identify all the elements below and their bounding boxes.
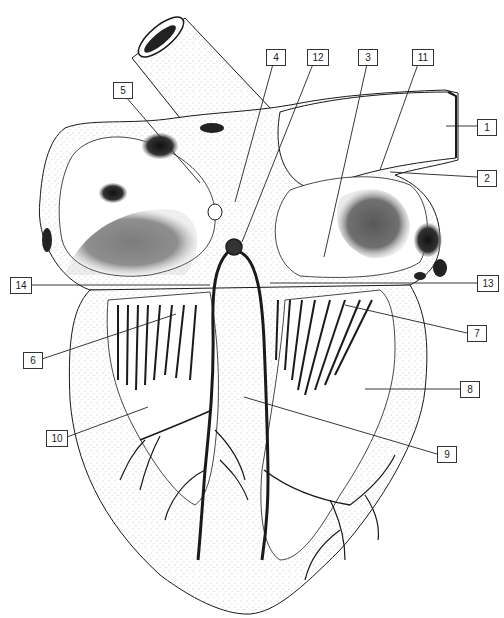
label-box-2: 2 — [477, 170, 497, 187]
label-box-6: 6 — [23, 352, 43, 369]
label-box-1: 1 — [477, 119, 497, 136]
ventricles — [69, 285, 426, 614]
label-box-14: 14 — [10, 277, 32, 294]
label-box-8: 8 — [460, 381, 480, 398]
label-box-9: 9 — [437, 446, 457, 463]
label-box-11: 11 — [412, 49, 434, 66]
label-box-13: 13 — [477, 275, 499, 292]
heart-diagram: 1234567891011121314 — [0, 0, 504, 618]
label-box-10: 10 — [46, 430, 68, 447]
heart-illustration — [0, 0, 504, 618]
label-box-7: 7 — [467, 325, 487, 342]
label-box-5: 5 — [113, 82, 133, 99]
label-box-12: 12 — [307, 49, 329, 66]
leader-line-2 — [390, 172, 477, 177]
superior-vessel — [132, 11, 272, 118]
label-box-4: 4 — [266, 49, 286, 66]
label-box-3: 3 — [358, 49, 378, 66]
